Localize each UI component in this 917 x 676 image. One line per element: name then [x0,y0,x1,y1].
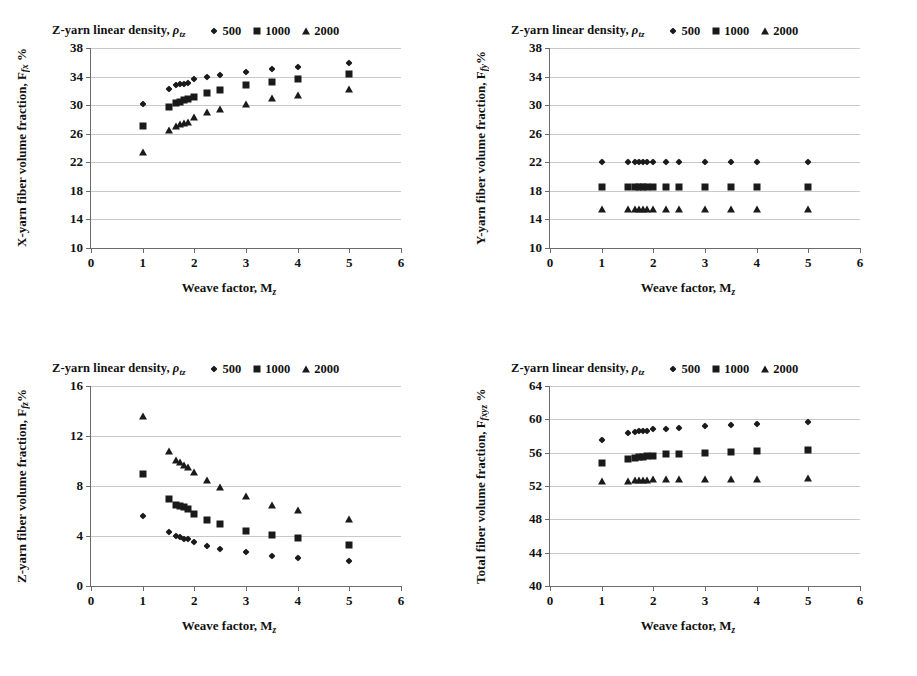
legend-entry-500[interactable]: 500 [210,362,242,377]
triangle-marker [301,365,310,374]
gridline [550,419,860,420]
legend-title: Z-yarn linear density, ρtz [52,23,186,39]
diamond-marker [210,365,219,374]
plot-area: 04812160123456 [90,386,401,587]
data-point-500 [727,159,734,166]
data-point-2000 [294,92,302,99]
y-tick-mark [86,191,91,192]
x-tick-label: 6 [398,255,405,271]
legend-label: 1000 [724,24,749,39]
x-tick-label: 4 [294,255,301,271]
data-point-500 [598,437,605,444]
y-tick-label: 56 [529,445,542,461]
x-tick-mark [194,248,195,253]
data-point-2000 [662,476,670,483]
data-point-1000 [650,183,657,190]
y-tick-label: 30 [529,97,542,113]
x-tick-mark [194,586,195,591]
x-tick-mark [401,586,402,591]
y-tick-label: 40 [529,578,542,594]
square-marker [253,28,260,35]
chart-panel-y-yarn: Z-yarn linear density, ρtz50010002000Y-y… [459,0,917,338]
y-tick-label: 38 [529,40,542,56]
legend-entry-500[interactable]: 500 [669,24,701,39]
x-tick-mark [705,586,706,591]
data-point-2000 [753,475,761,482]
square-marker [252,27,261,36]
legend-entry-2000[interactable]: 2000 [760,24,798,39]
legend-label: 1000 [265,362,290,377]
legend-entry-1000[interactable]: 1000 [252,24,290,39]
data-point-2000 [216,105,224,112]
data-point-2000 [727,206,735,213]
legend-entry-2000[interactable]: 2000 [301,362,339,377]
square-marker [253,366,260,373]
gridline [91,134,401,135]
y-tick-label: 8 [77,478,84,494]
data-point-500 [727,421,734,428]
x-tick-label: 6 [398,593,405,609]
x-tick-label: 4 [753,255,760,271]
gridline [550,134,860,135]
legend-label: 1000 [724,362,749,377]
data-point-500 [217,72,224,79]
legend-entry-2000[interactable]: 2000 [760,362,798,377]
legend-entry-2000[interactable]: 2000 [301,24,339,39]
legend-title: Z-yarn linear density, ρtz [511,23,645,39]
legend-entry-1000[interactable]: 1000 [711,362,749,377]
data-point-500 [701,422,708,429]
y-axis-label: Total fiber volume fraction, Ffxyz % [473,386,489,586]
x-tick-label: 4 [294,593,301,609]
data-point-2000 [753,206,761,213]
data-point-2000 [216,484,224,491]
gridline [550,191,860,192]
x-tick-mark [91,248,92,253]
x-tick-mark [757,248,758,253]
triangle-marker [302,366,310,373]
legend-label: 2000 [773,24,798,39]
x-tick-label: 3 [243,255,250,271]
legend-entry-500[interactable]: 500 [669,362,701,377]
x-tick-label: 1 [139,593,146,609]
y-tick-mark [545,134,550,135]
y-tick-label: 48 [529,511,542,527]
legend-label: 500 [682,362,701,377]
data-point-500 [268,65,275,72]
data-point-1000 [204,516,211,523]
x-tick-label: 5 [805,593,812,609]
y-tick-mark [545,219,550,220]
data-point-1000 [346,71,353,78]
data-point-1000 [191,510,198,517]
diamond-marker [210,27,219,36]
legend-entry-1000[interactable]: 1000 [252,362,290,377]
data-point-1000 [753,183,760,190]
gridline [91,191,401,192]
data-point-1000 [727,448,734,455]
y-tick-mark [86,219,91,220]
y-tick-label: 34 [529,69,542,85]
x-tick-mark [349,248,350,253]
triangle-marker [302,28,310,35]
legend-label: 2000 [773,362,798,377]
x-tick-mark [808,248,809,253]
y-tick-mark [86,105,91,106]
x-tick-label: 5 [805,255,812,271]
legend-entry-1000[interactable]: 1000 [711,24,749,39]
data-point-500 [139,512,146,519]
x-tick-label: 4 [753,593,760,609]
legend-entry-500[interactable]: 500 [210,24,242,39]
gridline [550,219,860,220]
data-point-2000 [675,206,683,213]
gridline [550,519,860,520]
y-tick-mark [86,436,91,437]
data-point-1000 [676,183,683,190]
data-point-500 [624,429,631,436]
data-point-1000 [624,183,631,190]
data-point-500 [346,557,353,564]
y-tick-mark [545,386,550,387]
diamond-marker [669,27,678,36]
y-tick-label: 26 [529,126,542,142]
legend-entries: 50010002000 [669,362,799,377]
y-tick-mark [86,48,91,49]
chart-panel-x-yarn: Z-yarn linear density, ρtz50010002000X-y… [0,0,458,338]
